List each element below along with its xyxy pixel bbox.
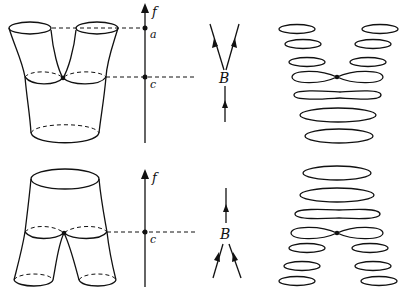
tick-label-c: c bbox=[150, 78, 156, 91]
tick-label-a: a bbox=[150, 28, 157, 41]
node-label-b: B bbox=[219, 226, 230, 242]
top-reeb-graph: B bbox=[210, 24, 239, 122]
top-surface bbox=[9, 22, 118, 143]
arrow-up-icon bbox=[141, 169, 149, 179]
bottom-level-sets bbox=[279, 166, 397, 286]
axis-label-f: f bbox=[151, 170, 159, 185]
bottom-surface bbox=[14, 169, 116, 286]
morse-reeb-diagram: f a c B bbox=[0, 0, 410, 308]
bottom-f-axis: f c bbox=[141, 169, 159, 287]
top-level-sets bbox=[279, 25, 398, 144]
axis-label-f: f bbox=[151, 4, 159, 19]
node-label-b: B bbox=[218, 70, 229, 86]
top-f-axis: f a c bbox=[141, 3, 159, 143]
bottom-reeb-graph: B bbox=[213, 188, 241, 278]
tick-label-c: c bbox=[150, 233, 156, 246]
arrow-up-icon bbox=[141, 3, 149, 13]
